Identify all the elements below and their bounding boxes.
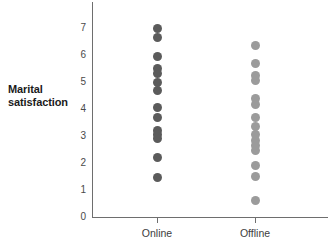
y-tick-3: 3 — [66, 131, 86, 141]
y-tick-4: 4 — [66, 104, 86, 114]
data-point — [153, 153, 162, 162]
data-point — [153, 86, 162, 95]
data-point — [153, 134, 162, 143]
data-point — [251, 161, 260, 170]
y-tick-5: 5 — [66, 77, 86, 87]
y-tick-label: 1 — [66, 185, 86, 195]
data-point — [251, 41, 260, 50]
x-axis-line — [92, 217, 328, 218]
y-tick-0: 0 — [66, 212, 86, 222]
x-tick-label-offline: Offline — [215, 227, 295, 239]
data-point — [251, 172, 260, 181]
x-tick-label-online: Online — [117, 227, 197, 239]
data-point — [153, 24, 162, 33]
data-point — [251, 113, 260, 122]
y-tick-6: 6 — [66, 50, 86, 60]
y-tick-label: 7 — [66, 23, 86, 33]
y-tick-label: 4 — [66, 104, 86, 114]
data-point — [251, 146, 260, 155]
data-point — [153, 52, 162, 61]
y-tick-label: 6 — [66, 50, 86, 60]
x-tick-mark-offline — [255, 218, 256, 223]
data-point — [153, 103, 162, 112]
y-tick-label: 2 — [66, 158, 86, 168]
data-point — [251, 76, 260, 85]
y-axis-line — [92, 2, 93, 217]
data-point — [251, 196, 260, 205]
y-tick-7: 7 — [66, 23, 86, 33]
y-tick-2: 2 — [66, 158, 86, 168]
y-tick-label: 3 — [66, 131, 86, 141]
y-tick-1: 1 — [66, 185, 86, 195]
data-point — [251, 59, 260, 68]
data-point — [153, 173, 162, 182]
data-point — [251, 100, 260, 109]
data-point — [153, 33, 162, 42]
data-point — [153, 113, 162, 122]
y-tick-label: 5 — [66, 77, 86, 87]
y-tick-label: 0 — [66, 212, 86, 222]
x-tick-mark-online — [157, 218, 158, 223]
dot-plot-chart: Marital satisfaction 01234567 OnlineOffl… — [0, 0, 331, 251]
